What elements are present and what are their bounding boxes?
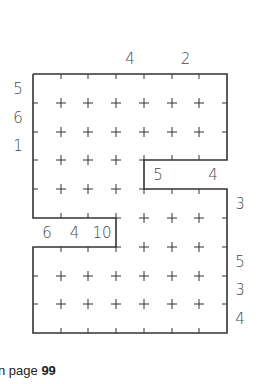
clue-right: 3: [235, 195, 245, 213]
clue-right: 5: [235, 253, 245, 271]
page-reference-prefix: n page: [0, 363, 41, 378]
clue-left: 5: [13, 80, 23, 98]
clue-upper-notch: 5: [153, 166, 163, 184]
clue-top: 4: [125, 50, 135, 68]
grid-outline: [33, 74, 227, 333]
page-reference: n page 99: [0, 363, 56, 378]
clue-left: 1: [13, 137, 23, 155]
clue-right: 4: [235, 310, 245, 328]
clue-upper-notch: 4: [208, 166, 218, 184]
clue-lower-notch: 6: [42, 224, 52, 242]
grid-marks: [33, 74, 227, 333]
clue-left: 6: [13, 109, 23, 127]
page-number: 99: [41, 363, 55, 378]
clue-lower-notch: 4: [70, 224, 80, 242]
puzzle-grid: 425613534546410: [0, 0, 258, 384]
clue-right: 3: [235, 281, 245, 299]
clue-top: 2: [181, 50, 191, 68]
clue-lower-notch: 10: [92, 224, 111, 242]
